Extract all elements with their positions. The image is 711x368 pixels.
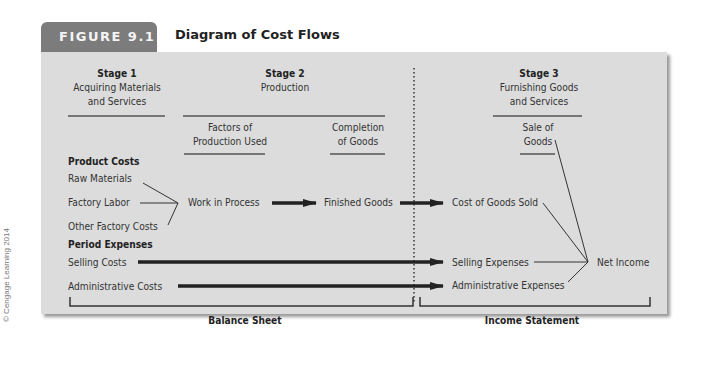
diagram-lines bbox=[0, 0, 711, 368]
